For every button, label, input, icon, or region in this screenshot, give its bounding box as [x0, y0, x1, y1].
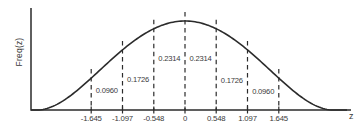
- bell-curve-canvas: [0, 0, 360, 131]
- x-tick-label-6: 1.645: [269, 114, 288, 123]
- area-proportion-label-0: 0.0960: [96, 86, 118, 95]
- area-proportion-label-1: 0.1726: [127, 75, 149, 84]
- x-tick-label-5: 1.097: [238, 114, 257, 123]
- area-proportion-label-3: 0.2314: [190, 54, 212, 63]
- x-tick-label-1: -1.097: [112, 114, 133, 123]
- x-tick-label-3: 0: [183, 114, 187, 123]
- x-tick-label-0: -1.645: [81, 114, 102, 123]
- area-proportion-label-2: 0.2314: [158, 54, 180, 63]
- y-axis-label: Freq(z): [14, 38, 24, 67]
- x-tick-label-4: 0.548: [207, 114, 226, 123]
- area-proportion-label-5: 0.0960: [252, 87, 274, 96]
- area-proportion-label-4: 0.1726: [221, 76, 243, 85]
- x-tick-label-2: -0.548: [143, 114, 164, 123]
- normal-distribution-figure: Freq(z) z -1.645-1.097-0.54800.5481.0971…: [0, 0, 360, 131]
- x-axis-label: z: [349, 111, 354, 121]
